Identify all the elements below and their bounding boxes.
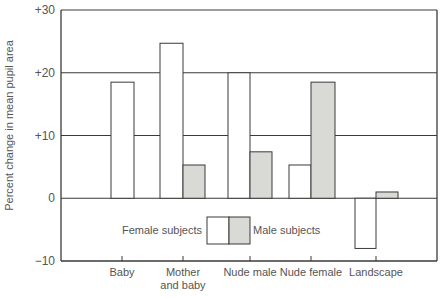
bar-female <box>355 198 376 248</box>
bars <box>111 43 398 248</box>
x-tick-label: Landscape <box>349 266 403 278</box>
x-tick-label: Mother <box>166 266 201 278</box>
y-axis-ticks: +30+20+100−10 <box>35 3 56 268</box>
bar-female <box>160 43 183 198</box>
bar-male <box>183 165 205 198</box>
legend-label-male: Male subjects <box>253 224 321 236</box>
y-tick-label: +20 <box>35 66 56 80</box>
y-tick-label: +10 <box>35 129 56 143</box>
bar-chart: Percent change in mean pupil area +30+20… <box>0 0 442 297</box>
legend-swatch-male <box>229 217 250 244</box>
legend: Female subjectsMale subjects <box>122 217 321 244</box>
y-axis-label: Percent change in mean pupil area <box>3 39 15 210</box>
bar-male <box>311 82 335 198</box>
x-tick-label: Nude female <box>280 266 342 278</box>
bar-male <box>376 192 398 198</box>
x-tick-label: Baby <box>109 266 135 278</box>
bar-female <box>228 73 250 199</box>
legend-swatch-female <box>207 217 229 244</box>
legend-label-female: Female subjects <box>122 224 203 236</box>
x-tick-label: Nude male <box>223 266 276 278</box>
y-tick-label: −10 <box>35 254 56 268</box>
y-tick-label: +30 <box>35 3 56 17</box>
bar-female <box>111 82 134 198</box>
y-tick-label: 0 <box>48 191 55 205</box>
x-tick-label: and baby <box>160 279 206 291</box>
bar-male <box>250 152 272 198</box>
y-axis-title: Percent change in mean pupil area <box>3 39 15 210</box>
bar-female <box>289 165 311 198</box>
